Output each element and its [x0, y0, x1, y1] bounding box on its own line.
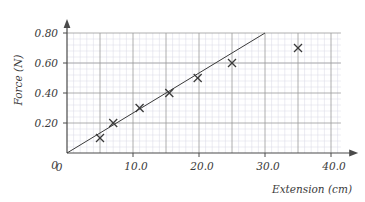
- y-tick-label: 0: [51, 159, 58, 171]
- y-tick-label: 0.20: [35, 117, 59, 129]
- chart-canvas: 010.020.030.040.0 00.200.400.600.80 Exte…: [0, 0, 365, 202]
- x-tick-label: 10.0: [124, 160, 148, 172]
- x-tick-label: 20.0: [189, 160, 214, 172]
- y-axis-title: Force (N): [12, 55, 24, 107]
- x-tick-label: 30.0: [256, 160, 280, 172]
- y-tick-label: 0.60: [35, 57, 59, 69]
- y-tick-label: 0.40: [35, 87, 59, 99]
- force-extension-chart: 010.020.030.040.0 00.200.400.600.80 Exte…: [0, 0, 365, 202]
- x-tick-label: 40.0: [321, 160, 346, 172]
- y-tick-label: 0.80: [35, 27, 59, 39]
- x-axis-title: Extension (cm): [271, 183, 352, 195]
